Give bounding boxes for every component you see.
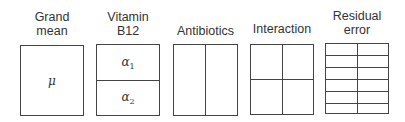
panel-label-line2: mean bbox=[14, 24, 90, 38]
panel-interaction: Interaction bbox=[244, 0, 320, 122]
row-divider bbox=[326, 79, 388, 80]
row-divider bbox=[97, 80, 159, 81]
row-divider bbox=[326, 55, 388, 56]
row-divider bbox=[326, 91, 388, 92]
alpha-1-symbol: α1 bbox=[121, 55, 134, 71]
panel-residual-error: Residual error bbox=[319, 0, 395, 122]
row-divider bbox=[326, 67, 388, 68]
panel-grand-mean: Grand mean μ bbox=[14, 0, 90, 122]
interaction-box bbox=[250, 44, 314, 115]
panel-label-line2: error bbox=[319, 23, 395, 37]
panel-vitamin-b12: Vitamin B12 α1 α2 bbox=[90, 0, 166, 122]
panel-label-line1: Vitamin bbox=[90, 10, 166, 24]
row-divider bbox=[251, 79, 313, 80]
panel-antibiotics: Antibiotics bbox=[167, 0, 244, 122]
panel-label-line2: B12 bbox=[90, 24, 166, 38]
vitamin-b12-box: α1 α2 bbox=[96, 44, 160, 116]
panel-label-line1: Grand bbox=[14, 10, 90, 24]
alpha-2-symbol: α2 bbox=[121, 90, 134, 106]
antibiotics-box bbox=[173, 44, 238, 116]
column-divider bbox=[205, 45, 206, 115]
panel-label-line1: Residual bbox=[319, 9, 395, 23]
mu-symbol: μ bbox=[48, 74, 56, 88]
panel-label-line2: Antibiotics bbox=[167, 24, 244, 38]
panel-label-line2: Interaction bbox=[244, 22, 320, 36]
residual-error-box bbox=[325, 43, 389, 114]
grand-mean-box: μ bbox=[20, 45, 84, 116]
row-divider bbox=[326, 103, 388, 104]
